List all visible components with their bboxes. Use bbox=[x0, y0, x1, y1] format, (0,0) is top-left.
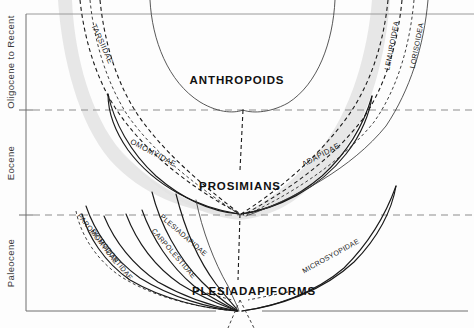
epoch-label-paleocene: Paleocene bbox=[5, 239, 16, 288]
prosimian-to-plesiadapiform-stem bbox=[238, 214, 240, 280]
epoch-label-group: Oligocene to Recent Eocene Paleocene bbox=[5, 15, 16, 287]
label-anthropoids: ANTHROPOIDS bbox=[190, 74, 285, 86]
plesiadapiform-descent-left bbox=[228, 300, 240, 328]
anthropoids-prosimians-connector bbox=[240, 110, 243, 170]
label-microsyopidae: MICROSYOPIDAE bbox=[301, 237, 361, 275]
anthropoids-left-margin bbox=[150, 0, 243, 112]
label-tarsiidae: TARSIIDAE bbox=[89, 23, 115, 66]
epoch-label-oligocene-to-recent: Oligocene to Recent bbox=[5, 15, 16, 109]
label-prosimians: PROSIMIANS bbox=[199, 180, 281, 192]
epoch-label-eocene: Eocene bbox=[5, 146, 16, 181]
label-omomyidae: OMOMYIDAE bbox=[129, 137, 178, 169]
plesiadapiform-descent-right bbox=[240, 300, 254, 328]
label-lorisoidea: LORISOIDEA bbox=[409, 22, 426, 69]
label-plesiadapiforms: PLESIADAPIFORMS bbox=[192, 285, 316, 297]
axis-group bbox=[19, 14, 474, 311]
phylogeny-canvas: Oligocene to Recent Eocene Paleocene bbox=[0, 0, 474, 328]
phylogeny-diagram: Oligocene to Recent Eocene Paleocene bbox=[0, 0, 474, 328]
anthropoids-right-margin bbox=[243, 0, 335, 112]
